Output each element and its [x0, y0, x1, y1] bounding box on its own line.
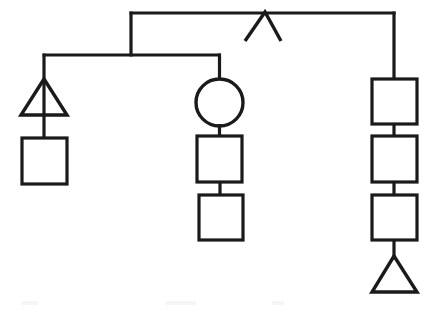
scan-artifact [22, 301, 38, 305]
right-triangle-node[interactable] [372, 256, 417, 292]
pedigree-diagram [0, 0, 427, 311]
right-square-2-node[interactable] [372, 136, 417, 182]
right-square-3-node[interactable] [372, 195, 417, 240]
apex-caret-icon[interactable] [245, 12, 281, 41]
left-square-node[interactable] [22, 138, 67, 184]
middle-square-1-node[interactable] [197, 136, 242, 182]
scan-artifact [166, 301, 196, 305]
scan-artifact [272, 301, 284, 305]
right-square-1-node[interactable] [372, 79, 417, 124]
middle-square-2-node[interactable] [199, 195, 243, 240]
pedigree-diagram-canvas [0, 0, 427, 311]
middle-circle-node[interactable] [196, 79, 243, 126]
